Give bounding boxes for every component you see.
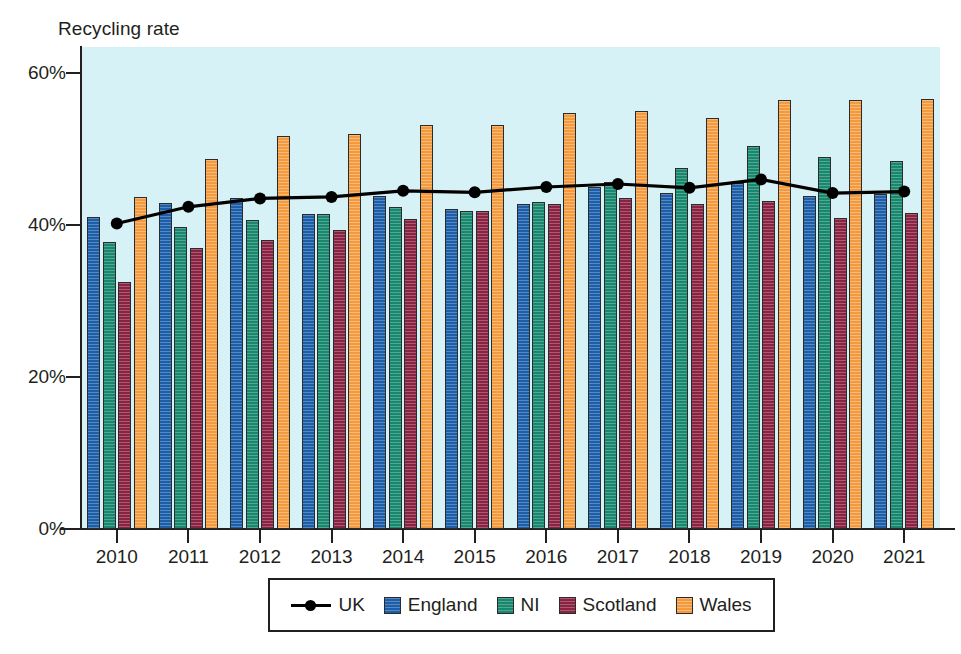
x-axis-tick	[832, 530, 834, 543]
x-axis-tick-label: 2015	[454, 546, 496, 568]
x-axis-tick-label: 2018	[668, 546, 710, 568]
x-axis-tick	[545, 530, 547, 543]
bar-ni-2017	[604, 182, 617, 529]
x-axis-tick-label: 2014	[382, 546, 424, 568]
square-swatch-icon	[676, 597, 693, 614]
line-marker-icon	[291, 598, 331, 612]
x-axis-tick-label: 2010	[96, 546, 138, 568]
bar-scotland-2019	[762, 201, 775, 529]
y-axis-tick	[66, 528, 81, 530]
bar-wales-2010	[134, 197, 147, 529]
bar-wales-2019	[778, 100, 791, 529]
legend-item-ni: NI	[497, 594, 540, 616]
x-axis-tick	[331, 530, 333, 543]
bar-ni-2018	[675, 168, 688, 529]
x-axis-tick	[259, 530, 261, 543]
legend-item-wales: Wales	[676, 594, 752, 616]
recycling-rate-chart: Recycling rate 0%20%40%60% 2010201120122…	[0, 0, 961, 654]
bar-wales-2014	[420, 125, 433, 529]
bar-scotland-2012	[261, 240, 274, 529]
y-axis-tick-label: 0%	[4, 518, 66, 540]
bar-scotland-2014	[404, 219, 417, 529]
bar-ni-2021	[890, 161, 903, 529]
bar-england-2018	[660, 193, 673, 529]
legend-label-uk: UK	[338, 594, 364, 616]
bar-scotland-2016	[548, 204, 561, 529]
bar-ni-2011	[174, 227, 187, 529]
x-axis-tick	[116, 530, 118, 543]
bar-england-2012	[230, 198, 243, 529]
x-axis-tick	[617, 530, 619, 543]
x-axis-tick-label: 2019	[740, 546, 782, 568]
bar-wales-2016	[563, 113, 576, 529]
bar-scotland-2020	[834, 218, 847, 529]
y-axis-tick-label: 60%	[4, 62, 66, 84]
bar-wales-2011	[205, 159, 218, 529]
y-axis-title: Recycling rate	[58, 18, 180, 40]
legend-item-uk: UK	[291, 594, 364, 616]
bar-ni-2020	[818, 157, 831, 529]
x-axis-tick-label: 2016	[525, 546, 567, 568]
bar-england-2011	[159, 203, 172, 529]
y-axis-tick-label: 20%	[4, 366, 66, 388]
bar-england-2016	[517, 204, 530, 529]
x-axis-tick-label: 2013	[310, 546, 352, 568]
x-axis-tick	[688, 530, 690, 543]
bar-ni-2019	[747, 146, 760, 529]
bar-wales-2013	[348, 134, 361, 529]
x-axis-tick-label: 2021	[883, 546, 925, 568]
bar-scotland-2021	[905, 213, 918, 529]
square-swatch-icon	[559, 597, 576, 614]
x-axis-tick-label: 2011	[168, 546, 209, 568]
bar-ni-2012	[246, 220, 259, 529]
y-axis-tick	[66, 376, 81, 378]
bar-scotland-2013	[333, 230, 346, 529]
legend-label-wales: Wales	[700, 594, 752, 616]
bar-wales-2021	[921, 99, 934, 529]
bar-england-2014	[373, 196, 386, 529]
bar-england-2015	[445, 209, 458, 529]
bar-england-2017	[588, 187, 601, 529]
x-axis-tick-label: 2020	[811, 546, 853, 568]
x-axis-tick-label: 2017	[597, 546, 639, 568]
bar-scotland-2010	[118, 282, 131, 529]
bar-wales-2018	[706, 118, 719, 529]
bar-wales-2020	[849, 100, 862, 529]
y-axis-tick-label: 40%	[4, 214, 66, 236]
y-axis-tick	[66, 72, 81, 74]
y-axis-line	[80, 46, 82, 530]
bar-scotland-2018	[691, 204, 704, 529]
x-axis-tick	[903, 530, 905, 543]
legend-label-ni: NI	[521, 594, 540, 616]
bar-wales-2017	[635, 111, 648, 529]
bar-england-2019	[731, 183, 744, 529]
bar-ni-2010	[103, 242, 116, 529]
x-axis-tick	[187, 530, 189, 543]
x-axis-tick-label: 2012	[239, 546, 281, 568]
bar-ni-2013	[317, 214, 330, 529]
bar-ni-2016	[532, 202, 545, 529]
square-swatch-icon	[384, 597, 401, 614]
bar-scotland-2011	[190, 248, 203, 529]
bar-england-2021	[874, 194, 887, 529]
x-axis-tick	[474, 530, 476, 543]
bar-england-2020	[803, 196, 816, 529]
bar-england-2010	[87, 217, 100, 529]
y-axis-tick	[66, 224, 81, 226]
legend-label-scotland: Scotland	[583, 594, 657, 616]
legend-item-scotland: Scotland	[559, 594, 657, 616]
bar-scotland-2015	[476, 211, 489, 529]
legend-item-england: England	[384, 594, 478, 616]
bar-ni-2015	[460, 211, 473, 529]
x-axis-tick	[760, 530, 762, 543]
bar-ni-2014	[389, 207, 402, 529]
bar-england-2013	[302, 214, 315, 529]
bar-wales-2012	[277, 136, 290, 529]
legend-label-england: England	[408, 594, 478, 616]
bar-wales-2015	[491, 125, 504, 529]
chart-legend: UK England NI Scotland Wales	[268, 578, 775, 632]
x-axis-tick	[402, 530, 404, 543]
bar-scotland-2017	[619, 198, 632, 529]
square-swatch-icon	[497, 597, 514, 614]
